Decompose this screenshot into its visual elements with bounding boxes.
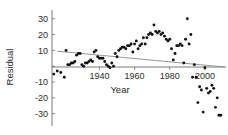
data-point <box>91 60 94 63</box>
x-tick-label: 2000 <box>195 71 215 81</box>
x-axis-title: Year <box>110 84 129 95</box>
data-point <box>112 65 115 68</box>
data-point <box>203 66 206 69</box>
data-point <box>196 101 199 104</box>
data-point <box>137 47 140 50</box>
data-point <box>191 76 194 79</box>
y-tick-label: 10 <box>38 46 48 56</box>
data-point <box>212 87 215 90</box>
x-tick-label: 1940 <box>89 71 109 81</box>
data-point <box>205 87 208 90</box>
data-point <box>168 38 171 41</box>
data-point <box>151 33 154 36</box>
data-point <box>102 57 105 60</box>
data-point <box>52 73 55 76</box>
data-point <box>170 47 173 50</box>
data-point <box>124 47 127 50</box>
data-point <box>109 66 112 69</box>
data-point <box>145 36 148 39</box>
data-point <box>181 44 184 47</box>
data-point <box>161 32 164 35</box>
y-tick-label: 20 <box>38 30 48 40</box>
data-point <box>186 17 189 20</box>
data-point <box>73 60 76 63</box>
data-point <box>158 30 161 33</box>
y-tick-label: -20 <box>35 93 48 103</box>
data-point <box>110 62 113 65</box>
data-point <box>131 51 134 54</box>
data-point <box>152 24 155 27</box>
data-point <box>59 71 62 74</box>
data-point <box>195 76 198 79</box>
data-point <box>56 70 59 73</box>
data-point <box>114 52 117 55</box>
data-point <box>65 49 68 52</box>
data-point <box>142 36 145 39</box>
data-point <box>174 52 177 55</box>
data-point <box>79 52 82 55</box>
data-point <box>94 49 97 52</box>
data-point <box>200 88 203 91</box>
data-point <box>63 76 66 79</box>
data-point <box>184 38 187 41</box>
data-point <box>209 90 212 93</box>
axis-titles-layer: Residual Year <box>4 49 130 95</box>
y-axis-title: Residual <box>4 49 15 86</box>
data-point <box>172 58 175 61</box>
data-point <box>198 85 201 88</box>
data-point <box>135 39 138 42</box>
data-point <box>82 65 85 68</box>
data-point <box>216 96 219 99</box>
data-point <box>188 43 191 46</box>
data-point <box>140 43 143 46</box>
data-point <box>182 62 185 65</box>
data-point <box>189 33 192 36</box>
x-tick-label: 1980 <box>160 71 180 81</box>
data-point <box>214 106 217 109</box>
y-tick-label: -30 <box>35 109 48 119</box>
data-point <box>116 55 119 58</box>
x-tick-layer: 1940196019802000 <box>89 67 214 81</box>
x-tick-label: 1960 <box>125 71 145 81</box>
residual-scatter-chart: 302010-10-20-30 1940196019802000 Residua… <box>0 0 228 135</box>
data-point <box>202 111 205 114</box>
plot-area: 302010-10-20-30 1940196019802000 Residua… <box>0 0 228 135</box>
data-point <box>103 60 106 63</box>
data-point <box>219 114 222 117</box>
data-point <box>210 84 213 87</box>
data-point <box>130 43 133 46</box>
data-point <box>163 35 166 38</box>
axes-layer <box>52 10 226 126</box>
y-tick-label: -10 <box>35 77 48 87</box>
y-tick-label: 30 <box>38 14 48 24</box>
data-point <box>193 63 196 66</box>
data-point <box>144 43 147 46</box>
data-point <box>133 43 136 46</box>
